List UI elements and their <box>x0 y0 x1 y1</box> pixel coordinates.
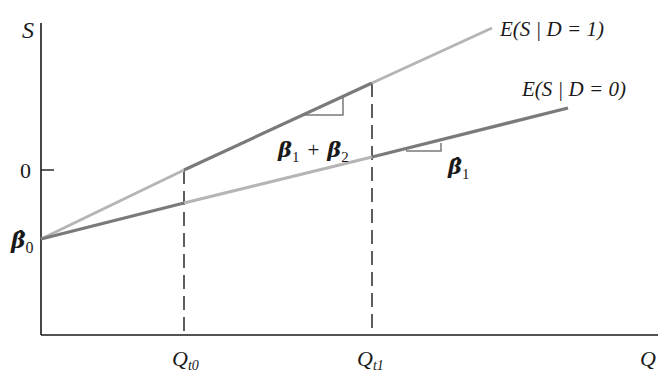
slope-d1-label: β1+β2 <box>277 137 349 165</box>
intercept-symbol: β̂ <box>10 227 26 253</box>
line-d1 <box>41 28 492 239</box>
line-d1-right <box>372 28 492 83</box>
intercept-label: β̂0 <box>10 227 34 256</box>
line-d0-right <box>372 108 568 157</box>
y-tick-zero-label: 0 <box>20 158 31 183</box>
line-d1-label: E(S | D = 1) <box>499 17 604 41</box>
interaction-diagram: S 0 β̂0 Qt0 Qt1 Q E(S | D = 1) E(S | D =… <box>0 0 665 386</box>
line-d0 <box>41 108 568 239</box>
y-axis-label: S <box>22 17 34 43</box>
x-tick-qt1: Qt1 <box>357 346 384 373</box>
dashed-guides <box>184 83 372 335</box>
line-d0-left <box>41 203 184 239</box>
x-axis-label: Q <box>640 346 656 371</box>
axes <box>41 23 658 335</box>
x-tick-qt0: Qt0 <box>172 346 199 373</box>
line-d0-label: E(S | D = 0) <box>521 77 626 101</box>
line-d1-left <box>41 170 184 239</box>
slope-d0-label: β̂1 <box>447 154 469 182</box>
intercept-subscript: 0 <box>26 239 34 256</box>
